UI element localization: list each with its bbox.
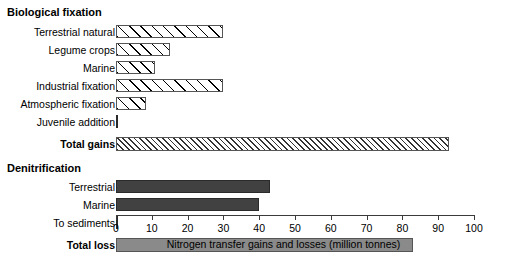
x-axis-tick [223, 215, 224, 220]
row-label-marine-fixation: Marine [83, 61, 115, 75]
chart-row: Industrial fixation [0, 79, 507, 93]
row-label-juvenile-addition: Juvenile addition [37, 115, 115, 129]
row-label-to-sediments: To sediments [53, 216, 115, 230]
bar-terrestrial-denitrification [116, 180, 270, 193]
x-axis-tick-label: 20 [182, 222, 194, 234]
chart-row: Marine [0, 198, 507, 212]
row-label-atmospheric-fixation: Atmospheric fixation [20, 97, 115, 111]
x-axis-tick [259, 215, 260, 220]
bar-total-gains [116, 137, 449, 151]
section-heading-denitrification: Denitrification [7, 162, 81, 174]
x-axis-tick-label: 100 [465, 222, 483, 234]
chart-row: Terrestrial natural [0, 25, 507, 39]
x-axis-tick-label: 90 [432, 222, 444, 234]
nitrogen-transfer-bar-chart: Biological fixation Terrestrial natural … [0, 0, 507, 259]
x-axis-tick [331, 215, 332, 220]
chart-row: Terrestrial [0, 180, 507, 194]
row-label-industrial-fixation: Industrial fixation [36, 79, 115, 93]
row-label-total-gains: Total gains [60, 137, 115, 151]
bar-atmospheric-fixation [116, 97, 146, 110]
x-axis-tick-label: 60 [325, 222, 337, 234]
x-axis-tick-label: 80 [397, 222, 409, 234]
x-axis-tick [295, 215, 296, 220]
x-axis-tick-label: 0 [113, 222, 119, 234]
x-axis-tick [188, 215, 189, 220]
x-axis-tick-label: 40 [253, 222, 265, 234]
row-label-marine-denitrification: Marine [83, 198, 115, 212]
bar-juvenile-addition [116, 115, 118, 128]
x-axis-tick-label: 30 [218, 222, 230, 234]
x-axis-tick-label: 50 [289, 222, 301, 234]
x-axis-tick [438, 215, 439, 220]
x-axis-tick [474, 215, 475, 220]
chart-row: Legume crops [0, 43, 507, 57]
x-axis-tick [152, 215, 153, 220]
x-axis-tick-label: 70 [361, 222, 373, 234]
chart-row: Total gains [0, 137, 507, 151]
chart-row: Atmospheric fixation [0, 97, 507, 111]
section-heading-biological-fixation: Biological fixation [7, 6, 102, 18]
bar-terrestrial-natural [116, 25, 223, 38]
bar-marine-fixation [116, 61, 155, 74]
row-label-terrestrial-natural: Terrestrial natural [34, 25, 115, 39]
chart-row: Marine [0, 61, 507, 75]
row-label-legume-crops: Legume crops [48, 43, 115, 57]
x-axis-title: Nitrogen transfer gains and losses (mill… [0, 238, 507, 250]
row-label-terrestrial-denitrification: Terrestrial [69, 180, 115, 194]
x-axis-tick [116, 215, 117, 220]
x-axis-tick [402, 215, 403, 220]
chart-row: Juvenile addition [0, 115, 507, 129]
bar-legume-crops [116, 43, 170, 56]
x-axis-tick [367, 215, 368, 220]
x-axis-tick-label: 10 [146, 222, 158, 234]
bar-industrial-fixation [116, 79, 223, 92]
bar-marine-denitrification [116, 198, 259, 211]
